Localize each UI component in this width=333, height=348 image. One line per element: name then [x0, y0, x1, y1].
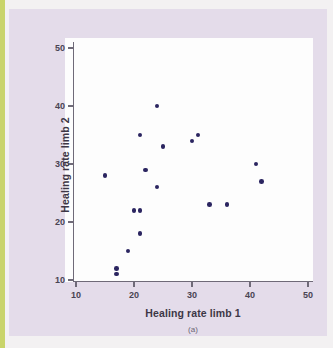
scatter-point	[103, 173, 108, 178]
x-tick-label: 10	[63, 290, 89, 300]
page-edge-strip	[0, 0, 5, 348]
x-tick-mark	[307, 282, 308, 287]
x-tick-mark	[249, 282, 250, 287]
scatter-point	[132, 208, 137, 213]
x-axis-title: Healing rate limb 1	[73, 307, 313, 319]
scatter-point	[143, 168, 148, 173]
figure-caption: (a)	[73, 325, 313, 334]
figure-panel: 1020304050 1020304050 Healing rate limb …	[9, 9, 327, 336]
scatter-point	[138, 208, 143, 213]
x-tick-label: 30	[179, 290, 205, 300]
scatter-point	[114, 266, 119, 271]
scatter-point	[225, 202, 230, 207]
x-tick-label: 20	[121, 290, 147, 300]
x-tick-label: 40	[237, 290, 263, 300]
x-tick-label: 50	[295, 290, 321, 300]
x-tick-mark	[133, 282, 134, 287]
page-canvas: 1020304050 1020304050 Healing rate limb …	[0, 0, 333, 348]
x-axis-line	[73, 281, 313, 282]
scatter-point	[138, 231, 143, 236]
x-tick-mark	[191, 282, 192, 287]
y-axis-line	[73, 42, 74, 282]
plot-area	[65, 38, 313, 282]
scatter-point	[161, 144, 166, 149]
scatter-point	[259, 179, 264, 184]
x-tick-mark	[75, 282, 76, 287]
y-axis-title: Healing rate limb 2	[59, 45, 71, 285]
scatter-point	[207, 202, 212, 207]
